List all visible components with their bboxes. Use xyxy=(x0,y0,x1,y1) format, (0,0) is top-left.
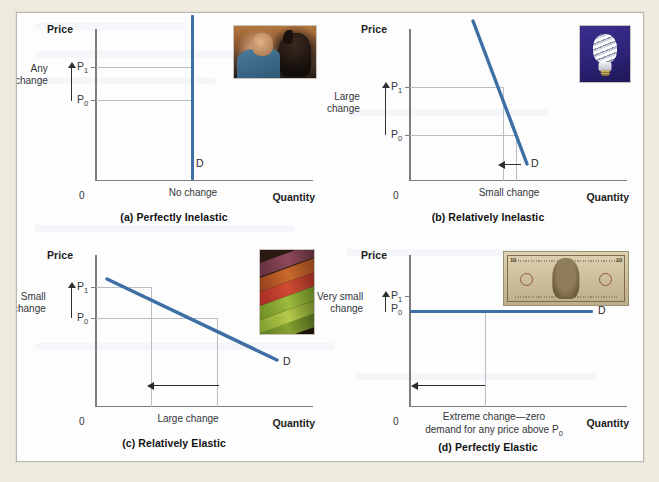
quantity-change-arrow-c xyxy=(153,385,219,386)
panel-perfectly-inelastic: Price Quantity 0 P1 P0 Any change D xyxy=(17,15,331,240)
panel-perfectly-elastic: 10 10 Price Quantity 0 P1 P0 Very small … xyxy=(331,241,644,462)
p0-letter: P xyxy=(391,302,398,314)
p1-letter: P xyxy=(391,289,398,301)
p1-subscript: 1 xyxy=(398,86,402,95)
plot-area-d: Price Quantity 0 P1 P0 Very small change… xyxy=(409,255,627,407)
panel-title-c: (c) Relatively Elastic xyxy=(17,437,331,449)
price-change-annotation-b: Large change xyxy=(327,91,360,115)
x-axis-title: Quantity xyxy=(586,417,629,429)
gridline-p1 xyxy=(96,67,192,68)
price-label-p1: P1 xyxy=(391,80,402,95)
price-change-line2: change xyxy=(327,103,360,114)
quantity-change-line1: Extreme change—zero xyxy=(443,411,545,422)
x-axis-title: Quantity xyxy=(586,191,629,203)
plot-area-c: Price Quantity 0 P1 P0 Small change xyxy=(95,255,313,407)
plot-area-a: Price Quantity 0 P1 P0 Any change D xyxy=(95,29,313,181)
price-label-p0: P0 xyxy=(391,128,402,143)
figure-panel: Price Quantity 0 P1 P0 Any change D xyxy=(16,12,644,462)
p0-subscript: 0 xyxy=(398,134,402,143)
p0-letter: P xyxy=(391,128,398,140)
p0-subscript: 0 xyxy=(84,317,88,326)
quantity-change-label-c: Large change xyxy=(133,413,243,426)
x-axis xyxy=(95,180,313,182)
y-axis-title: Price xyxy=(47,249,73,261)
price-label-p0: P0 xyxy=(77,93,88,108)
price-change-arrow-b xyxy=(385,87,386,135)
origin-label: 0 xyxy=(79,190,85,201)
price-change-line2: change xyxy=(16,303,46,314)
y-axis-title: Price xyxy=(361,23,387,35)
quantity-change-label-d: Extreme change—zero demand for any price… xyxy=(419,411,569,440)
price-label-p0: P0 xyxy=(391,302,402,317)
quantity-change-label-a: No change xyxy=(147,187,239,200)
price-change-line1: Any xyxy=(31,63,48,74)
price-change-annotation-d: Very small change xyxy=(317,291,363,315)
quantity-change-arrow-b xyxy=(504,164,521,165)
panel-relatively-elastic: Price Quantity 0 P1 P0 Small change xyxy=(17,241,331,462)
tick-p0 xyxy=(91,100,96,101)
panel-title-b: (b) Relatively Inelastic xyxy=(331,211,644,223)
price-change-line1: Very small xyxy=(317,291,363,302)
p0-subscript: 0 xyxy=(398,308,402,317)
demand-label-d: D xyxy=(598,304,606,316)
quantity-change-arrow-d xyxy=(417,385,485,386)
price-change-line2: change xyxy=(330,303,363,314)
price-label-p1: P1 xyxy=(77,280,88,295)
quantity-change-line2: demand for any price above P0 xyxy=(425,424,563,435)
demand-curve-c xyxy=(107,279,277,360)
x-axis xyxy=(409,406,627,408)
price-change-arrow-a xyxy=(71,67,72,101)
x-axis-title: Quantity xyxy=(272,417,315,429)
plot-area-b: Price Quantity 0 P1 P0 Large change xyxy=(409,29,627,181)
panel-title-d: (d) Perfectly Elastic xyxy=(331,441,644,453)
demand-label-a: D xyxy=(196,157,204,169)
panel-relatively-inelastic: Price Quantity 0 P1 P0 Large change xyxy=(331,15,644,240)
origin-label: 0 xyxy=(393,416,399,427)
demand-curve-a xyxy=(191,15,194,180)
price-label-p0: P0 xyxy=(77,311,88,326)
p1-letter: P xyxy=(391,80,398,92)
price-change-line1: Large xyxy=(334,91,360,102)
price-change-arrow-d xyxy=(385,296,386,312)
x-axis-title: Quantity xyxy=(272,191,315,203)
origin-label: 0 xyxy=(79,416,85,427)
tick-p1 xyxy=(91,67,96,68)
price-change-arrow-c xyxy=(71,287,72,318)
demand-label-c: D xyxy=(283,355,291,367)
demand-curve-d xyxy=(410,310,593,313)
p1-subscript: 1 xyxy=(84,66,88,75)
quantity-change-label-b: Small change xyxy=(457,187,561,200)
demand-curve-svg-b xyxy=(409,29,627,181)
demand-curve-b xyxy=(473,21,527,164)
price-change-line2: change xyxy=(16,75,48,86)
p0-letter: P xyxy=(77,311,84,323)
quantity-change-line2-text: demand for any price above P xyxy=(425,424,558,435)
y-axis-title: Price xyxy=(361,249,387,261)
p1-letter: P xyxy=(77,280,84,292)
price-change-annotation-a: Any change xyxy=(16,63,48,87)
price-label-p1: P1 xyxy=(77,60,88,75)
y-axis-title: Price xyxy=(47,23,73,35)
gridline-q0 xyxy=(485,311,486,407)
p0-letter: P xyxy=(77,93,84,105)
quantity-change-line2-subscript: 0 xyxy=(559,429,563,438)
price-change-annotation-c: Small change xyxy=(16,291,46,315)
tick-p1 xyxy=(405,296,410,297)
panel-title-a: (a) Perfectly Inelastic xyxy=(17,211,331,223)
demand-label-b: D xyxy=(531,157,539,169)
p1-subscript: 1 xyxy=(84,286,88,295)
price-change-line1: Small xyxy=(21,291,46,302)
p1-letter: P xyxy=(77,60,84,72)
p0-subscript: 0 xyxy=(84,99,88,108)
origin-label: 0 xyxy=(393,190,399,201)
gridline-p0 xyxy=(96,100,192,101)
y-axis xyxy=(95,29,97,181)
